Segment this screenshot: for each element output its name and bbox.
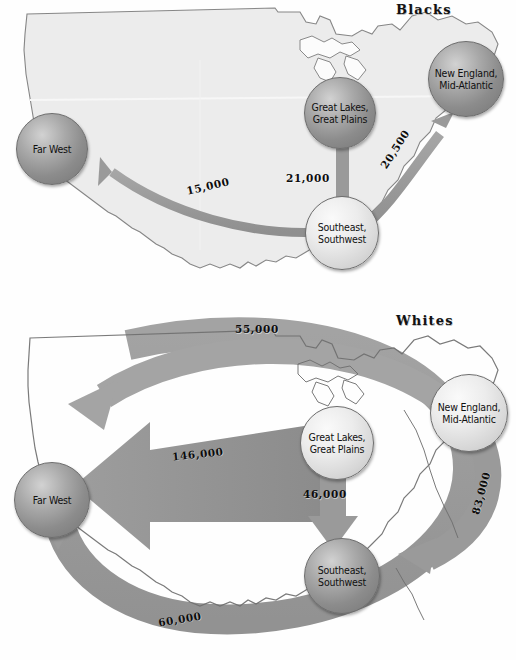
panel-title-blacks: Blacks xyxy=(396,2,452,17)
node-label: Southeast, Southwest xyxy=(316,221,369,245)
node-great-lakes-great-plains-blacks[interactable]: Great Lakes, Great Plains xyxy=(304,77,376,149)
node-new-england-mid-atlantic-whites[interactable]: New England, Mid-Atlantic xyxy=(430,374,508,452)
node-label: New England, Mid-Atlantic xyxy=(433,67,500,91)
flow-label-21000: 21,000 xyxy=(286,172,330,184)
flow-arrow-great-lakes-to-far-west-whites xyxy=(74,422,330,550)
node-far-west-blacks[interactable]: Far West xyxy=(16,113,88,185)
flow-label-46000: 46,000 xyxy=(303,488,347,500)
flow-arrow-new-england-to-far-west-whites xyxy=(68,351,436,430)
node-far-west-whites[interactable]: Far West xyxy=(14,462,90,538)
node-new-england-mid-atlantic-blacks[interactable]: New England, Mid-Atlantic xyxy=(428,41,504,117)
migration-figure: Blacks Far West Great Lakes, Great Plain… xyxy=(0,0,516,660)
node-label: Far West xyxy=(31,494,74,506)
node-great-lakes-great-plains-whites[interactable]: Great Lakes, Great Plains xyxy=(300,406,374,480)
node-label: Great Lakes, Great Plains xyxy=(307,431,368,455)
panel-title-whites: Whites xyxy=(396,313,454,328)
node-southeast-southwest-blacks[interactable]: Southeast, Southwest xyxy=(305,196,379,270)
node-label: Far West xyxy=(31,143,74,155)
panel-blacks: Blacks Far West Great Lakes, Great Plain… xyxy=(0,0,516,300)
flow-label-55000: 55,000 xyxy=(235,323,279,335)
node-label: Southeast, Southwest xyxy=(316,564,369,588)
node-label: New England, Mid-Atlantic xyxy=(436,401,503,425)
node-label: Great Lakes, Great Plains xyxy=(310,101,371,125)
panel-whites: Whites Far West Great Lakes, Great Plain… xyxy=(0,300,516,660)
node-southeast-southwest-whites[interactable]: Southeast, Southwest xyxy=(304,538,380,614)
